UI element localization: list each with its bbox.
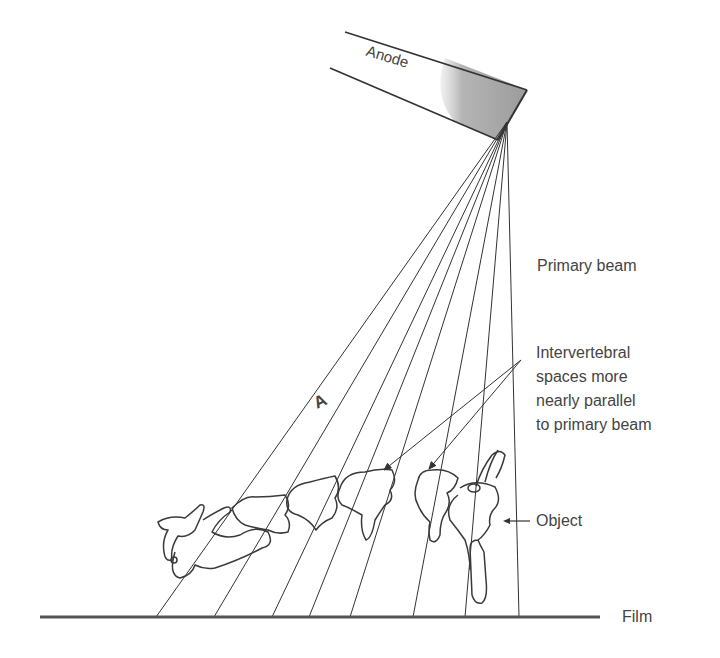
dens-tip — [468, 484, 480, 492]
beam-ray-1 — [156, 122, 507, 617]
beam-ray-2 — [214, 122, 507, 617]
primary-beam — [156, 122, 519, 617]
primary-beam-label: Primary beam — [537, 255, 637, 276]
vertebra-3 — [232, 495, 289, 533]
vertebra-1 — [158, 505, 204, 561]
anode — [330, 32, 527, 140]
object-label: Object — [536, 510, 582, 531]
leader-line-1 — [384, 360, 521, 470]
beam-ray-4 — [309, 122, 507, 617]
beam-ray-5 — [350, 122, 507, 617]
intervertebral-spaces-label: Intervertebral spaces more nearly parall… — [536, 341, 652, 437]
anode-target-shading — [440, 58, 527, 140]
vertebral-column — [158, 450, 505, 603]
vertebra-5 — [338, 469, 395, 540]
vertebra-2 — [172, 507, 270, 578]
vertebra-6 — [415, 470, 458, 542]
leader-line-2 — [429, 360, 521, 469]
radiography-diagram — [0, 0, 720, 658]
film-label: Film — [622, 606, 652, 627]
vertebra-4 — [287, 476, 339, 530]
intervertebral-leaders — [384, 360, 521, 470]
beam-ray-6 — [413, 122, 507, 617]
dens-process — [476, 450, 505, 486]
vertebra-7-body — [449, 495, 470, 570]
